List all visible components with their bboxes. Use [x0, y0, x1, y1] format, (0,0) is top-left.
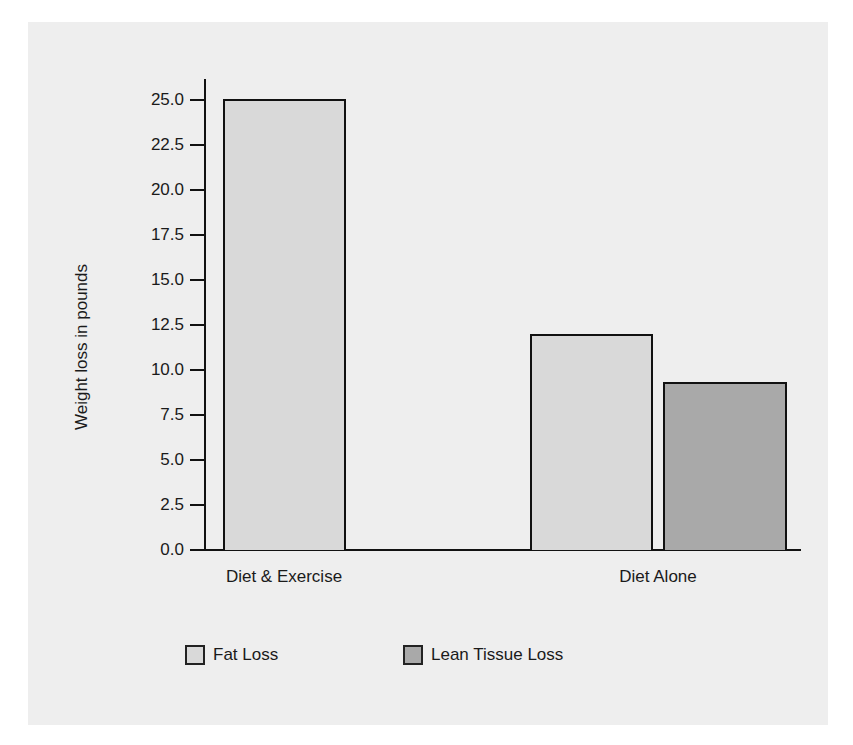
y-tick [190, 279, 205, 281]
y-tick [190, 99, 205, 101]
y-tick [190, 549, 205, 551]
y-tick [190, 369, 205, 371]
y-axis [204, 79, 206, 551]
y-tick [190, 459, 205, 461]
y-tick [190, 234, 205, 236]
y-tick [190, 324, 205, 326]
bar-diet-alone-fat-loss [530, 334, 653, 550]
legend-item-lean-tissue-loss: Lean Tissue Loss [403, 645, 563, 665]
legend-label-fat-loss: Fat Loss [213, 645, 278, 665]
bar-diet-alone-lean-tissue-loss [663, 382, 787, 550]
y-tick-label: 12.5 [100, 315, 184, 335]
y-tick-label: 7.5 [100, 405, 184, 425]
legend-label-lean-tissue-loss: Lean Tissue Loss [431, 645, 563, 665]
y-tick [190, 414, 205, 416]
category-label-diet-alone: Diet Alone [619, 567, 697, 587]
y-axis-label: Weight loss in pounds [72, 264, 92, 430]
y-tick-label: 5.0 [100, 450, 184, 470]
y-tick-label: 20.0 [100, 180, 184, 200]
legend-item-fat-loss: Fat Loss [185, 645, 278, 665]
y-tick-label: 17.5 [100, 225, 184, 245]
category-label-diet-exercise: Diet & Exercise [226, 567, 342, 587]
y-tick-label: 15.0 [100, 270, 184, 290]
y-tick-label: 10.0 [100, 360, 184, 380]
bar-diet-exercise-fat-loss [223, 99, 346, 550]
legend-swatch-fat-loss [185, 645, 205, 665]
y-tick-label: 22.5 [100, 135, 184, 155]
y-tick-label: 0.0 [100, 540, 184, 560]
y-tick-label: 25.0 [100, 90, 184, 110]
legend-swatch-lean-tissue-loss [403, 645, 423, 665]
y-tick-label: 2.5 [100, 495, 184, 515]
y-tick [190, 189, 205, 191]
y-tick [190, 144, 205, 146]
y-tick [190, 504, 205, 506]
